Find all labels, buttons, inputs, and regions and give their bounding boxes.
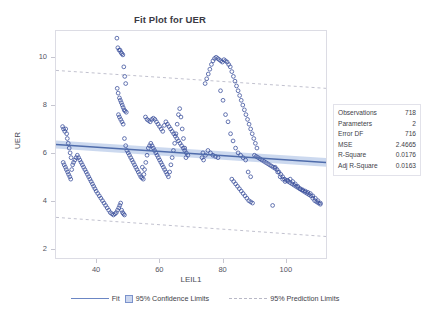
fit-plot-screenshot: Fit Plot for UER LEIL1 UER 4060801002468…: [0, 0, 426, 322]
legend-label-fit: Fit: [112, 294, 120, 303]
x-tick-mark: [286, 259, 287, 263]
x-tick-mark: [159, 259, 160, 263]
stat-label: Adj R-Square: [338, 161, 378, 172]
stat-value: 0.0163: [392, 161, 416, 172]
y-tick-label: 10: [25, 52, 47, 61]
stat-label: MSE: [338, 140, 352, 151]
fit-line-icon: [71, 298, 109, 299]
x-axis-label: LEIL1: [55, 275, 327, 284]
stat-value: 718: [401, 108, 416, 119]
x-tick-mark: [223, 259, 224, 263]
scatter-points: [61, 36, 323, 217]
plot-canvas: [56, 31, 326, 258]
stat-row: Observations718: [338, 108, 416, 119]
y-tick-mark: [51, 249, 55, 250]
prediction-line-icon: [229, 298, 267, 299]
stat-label: Parameters: [338, 119, 372, 130]
y-tick-mark: [51, 57, 55, 58]
stat-value: 0.0176: [392, 150, 416, 161]
legend-label-prediction: 95% Prediction Limits: [270, 294, 339, 303]
stat-label: Observations: [338, 108, 377, 119]
legend-label-confidence: 95% Confidence Limits: [136, 294, 210, 303]
stat-row: MSE2.4665: [338, 140, 416, 151]
legend-item-confidence: 95% Confidence Limits: [125, 294, 210, 303]
stat-label: Error DF: [338, 129, 363, 140]
x-tick-label: 80: [208, 265, 238, 274]
legend-item-fit: Fit: [71, 294, 120, 303]
legend-item-prediction: 95% Prediction Limits: [229, 294, 339, 303]
y-tick-label: 4: [25, 196, 47, 205]
stat-value: 716: [401, 129, 416, 140]
stat-label: R-Square: [338, 150, 366, 161]
stat-row: Parameters2: [338, 119, 416, 130]
stat-value: 2.4665: [392, 140, 416, 151]
y-tick-label: 6: [25, 148, 47, 157]
fit-line: [56, 145, 326, 163]
stat-row: R-Square0.0176: [338, 150, 416, 161]
page-title: Fit Plot for UER: [0, 14, 340, 25]
x-tick-label: 100: [271, 265, 301, 274]
stat-value: 2: [408, 119, 416, 130]
y-tick-label: 8: [25, 100, 47, 109]
y-tick-label: 2: [25, 244, 47, 253]
stat-row: Error DF716: [338, 129, 416, 140]
x-tick-label: 40: [81, 265, 111, 274]
y-tick-mark: [51, 153, 55, 154]
x-tick-mark: [96, 259, 97, 263]
y-tick-mark: [51, 201, 55, 202]
chart-legend: Fit 95% Confidence Limits 95% Prediction…: [55, 294, 355, 303]
x-tick-label: 60: [144, 265, 174, 274]
plot-area: [55, 30, 327, 259]
confidence-band-icon: [125, 295, 133, 303]
y-tick-mark: [51, 105, 55, 106]
y-axis-label: UER: [13, 111, 22, 171]
statistics-table: Observations718Parameters2Error DF716MSE…: [333, 104, 421, 176]
stat-row: Adj R-Square0.0163: [338, 161, 416, 172]
